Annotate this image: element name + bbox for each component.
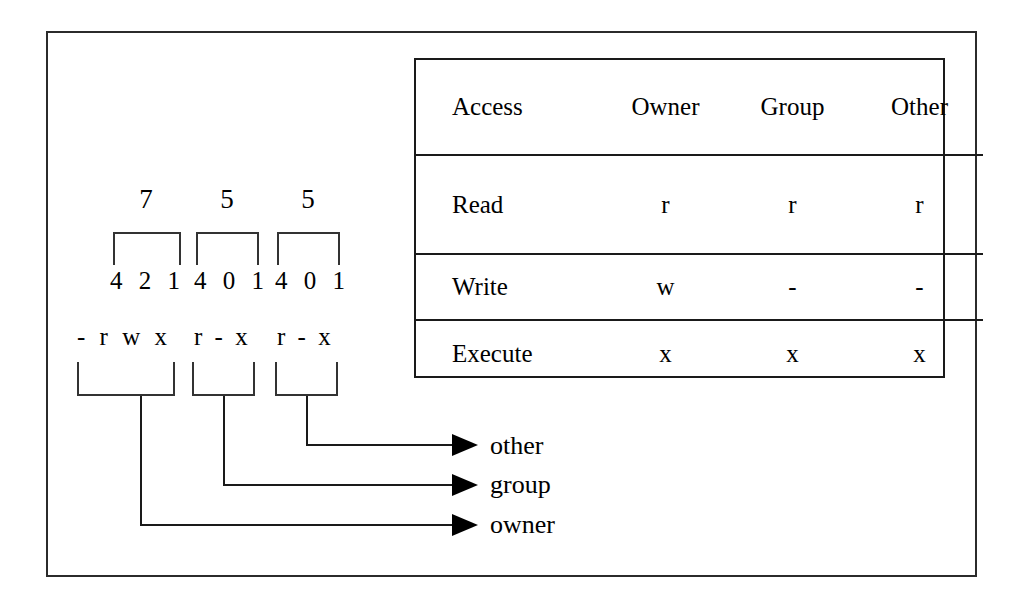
- cell-other-execute: x: [856, 320, 983, 386]
- table-row: Execute x x x: [416, 320, 983, 386]
- table-header-row: Access Owner Group Other: [416, 60, 983, 155]
- arrow-head-group-icon: [452, 474, 478, 496]
- symbolic-group: r - x: [194, 323, 251, 351]
- bit-weights-group: 4 0 1: [194, 267, 269, 295]
- connector-other-horizontal: [306, 444, 452, 446]
- arrow-head-other-icon: [452, 434, 478, 456]
- cell-group-write: -: [729, 254, 856, 320]
- permission-reference-table: Access Owner Group Other Read r r r Writ…: [414, 58, 945, 378]
- cell-owner-read: r: [602, 155, 729, 254]
- permissions-diagram: 7 5 5 4 2 1 4 0 1 4 0 1 - r w x r - x r …: [0, 0, 1016, 611]
- cell-owner-execute: x: [602, 320, 729, 386]
- label-group: group: [490, 470, 551, 500]
- cell-owner-write: w: [602, 254, 729, 320]
- connector-owner-horizontal: [140, 524, 452, 526]
- cell-other-read: r: [856, 155, 983, 254]
- symbolic-owner: - r w x: [77, 323, 171, 351]
- header-access: Access: [416, 60, 602, 155]
- header-group: Group: [729, 60, 856, 155]
- table-row: Write w - -: [416, 254, 983, 320]
- header-other: Other: [856, 60, 983, 155]
- bit-weights-owner: 4 2 1: [110, 267, 185, 295]
- octal-digit-owner: 7: [126, 184, 166, 215]
- bracket-top-group: [196, 232, 259, 265]
- octal-digit-group: 5: [207, 184, 247, 215]
- bracket-bottom-owner: [77, 362, 175, 396]
- label-other: other: [490, 431, 543, 461]
- connector-group-vertical: [223, 396, 225, 486]
- cell-access-write: Write: [416, 254, 602, 320]
- connector-group-horizontal: [223, 484, 452, 486]
- connector-owner-vertical: [140, 396, 142, 526]
- header-owner: Owner: [602, 60, 729, 155]
- label-owner: owner: [490, 510, 555, 540]
- cell-access-execute: Execute: [416, 320, 602, 386]
- cell-group-read: r: [729, 155, 856, 254]
- connector-other-vertical: [306, 396, 308, 446]
- bracket-top-other: [277, 232, 340, 265]
- cell-group-execute: x: [729, 320, 856, 386]
- cell-access-read: Read: [416, 155, 602, 254]
- bracket-bottom-group: [192, 362, 255, 396]
- arrow-head-owner-icon: [452, 514, 478, 536]
- octal-digit-other: 5: [288, 184, 328, 215]
- bit-weights-other: 4 0 1: [275, 267, 350, 295]
- table-row: Read r r r: [416, 155, 983, 254]
- bracket-bottom-other: [275, 362, 338, 396]
- cell-other-write: -: [856, 254, 983, 320]
- symbolic-other: r - x: [277, 323, 334, 351]
- bracket-top-owner: [113, 232, 181, 265]
